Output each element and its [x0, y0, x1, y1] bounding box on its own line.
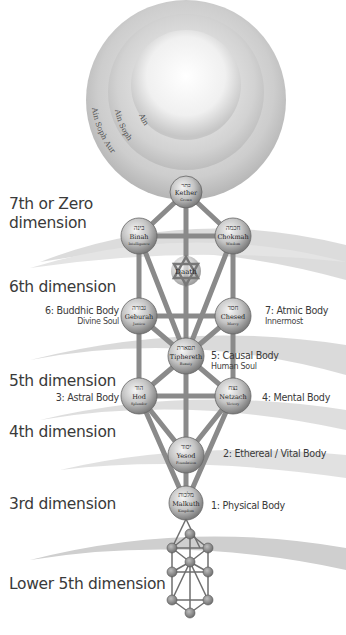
svg-text:Tiphereth: Tiphereth: [170, 353, 202, 361]
svg-text:Daath: Daath: [175, 268, 197, 276]
svg-text:Chesed: Chesed: [221, 313, 245, 321]
node-geburah: גבורה Geburah Justice: [121, 298, 157, 334]
svg-text:בינה: בינה: [134, 224, 145, 232]
dimension-7th-line2: dimension: [9, 214, 87, 232]
svg-text:Hod: Hod: [132, 393, 146, 401]
svg-text:Geburah: Geburah: [125, 313, 154, 321]
svg-text:נצח: נצח: [228, 384, 237, 392]
dimension-label-6th: 6th dimension: [9, 278, 116, 297]
svg-text:כתר: כתר: [181, 181, 191, 188]
svg-text:Kingdom: Kingdom: [178, 509, 195, 513]
svg-text:Binah: Binah: [129, 233, 148, 241]
dimension-label-3rd: 3rd dimension: [9, 495, 116, 514]
svg-text:Yesod: Yesod: [176, 452, 196, 460]
svg-text:גבורה: גבורה: [132, 304, 146, 312]
body-label-ethereal: 2: Ethereal / Vital Body: [223, 448, 326, 459]
svg-text:חסד: חסד: [228, 304, 239, 312]
node-netzach: נצח Netzach Victory: [215, 378, 251, 414]
svg-text:Chokmah: Chokmah: [217, 233, 248, 241]
svg-text:Crown: Crown: [180, 198, 192, 202]
svg-text:Beauty: Beauty: [180, 362, 192, 366]
svg-text:חכמה: חכמה: [226, 224, 241, 232]
svg-text:Splendor: Splendor: [131, 402, 147, 406]
svg-text:מלכות: מלכות: [178, 491, 194, 499]
body-label-causal: 5: Causal Body Human Soul: [211, 350, 279, 372]
svg-text:Malkuth: Malkuth: [172, 500, 200, 508]
node-tiphereth: תפארת Tiphereth Beauty: [168, 338, 204, 374]
svg-text:Kether: Kether: [175, 189, 198, 197]
body-label-physical: 1: Physical Body: [211, 500, 285, 511]
dimension-label-lower-5th: Lower 5th dimension: [9, 575, 166, 594]
node-hod: הוד Hod Splendor: [121, 378, 157, 414]
svg-text:Mercy: Mercy: [227, 322, 238, 326]
svg-text:Justice: Justice: [132, 322, 145, 326]
body-label-mental: 4: Mental Body: [262, 392, 330, 403]
svg-text:Wisdom: Wisdom: [226, 242, 241, 246]
svg-text:Foundation: Foundation: [176, 461, 197, 465]
dimension-label-7th: 7th or Zero dimension: [9, 195, 93, 233]
node-malkuth: מלכות Malkuth Kingdom: [169, 486, 203, 520]
svg-text:Netzach: Netzach: [219, 393, 246, 401]
body-label-atmic: 7: Atmic Body Innermost: [265, 305, 328, 327]
svg-text:הוד: הוד: [135, 384, 144, 392]
dimension-label-5th: 5th dimension: [9, 372, 116, 391]
svg-text:תפארת: תפארת: [177, 344, 195, 352]
veils-of-negative-existence: Ain Ain Soph Ain Soph Aur: [86, 0, 286, 200]
node-chesed: חסד Chesed Mercy: [215, 298, 251, 334]
node-kether: כתר Kether Crown: [170, 176, 202, 208]
body-label-buddhic: 6: Buddhic Body Divine Soul: [45, 305, 119, 327]
node-chokmah: חכמה Chokmah Wisdom: [215, 218, 251, 254]
node-yesod: יסוד Yesod Foundation: [168, 437, 204, 473]
dimension-7th-line1: 7th or Zero: [9, 195, 93, 213]
body-label-astral: 3: Astral Body: [56, 392, 119, 403]
dimension-label-4th: 4th dimension: [9, 423, 116, 442]
daath-node: Daath: [171, 256, 201, 286]
svg-text:Victory: Victory: [226, 402, 240, 406]
svg-text:Intelligence: Intelligence: [128, 242, 149, 246]
node-binah: בינה Binah Intelligence: [121, 218, 157, 254]
lower-tree: [167, 519, 213, 618]
svg-text:יסוד: יסוד: [181, 443, 191, 451]
